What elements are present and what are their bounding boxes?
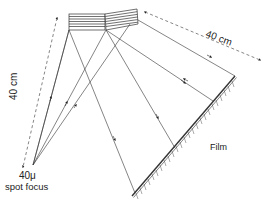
crystal-right-segment [105, 9, 138, 30]
incident-ray-arrows [50, 97, 76, 108]
distance-label-left: 40 cm [8, 73, 19, 100]
film [132, 76, 237, 198]
focus-size-label: 40μ [19, 170, 36, 181]
film-label: Film [210, 142, 227, 152]
crystal-left-segment [69, 14, 105, 30]
dimension-line-left [23, 18, 57, 167]
dimension-line-top [145, 12, 260, 60]
crystal-focusing-diagram [0, 0, 266, 206]
reflected-rays [33, 20, 235, 193]
film-hatching [136, 81, 234, 199]
focus-desc-label: spot focus [5, 181, 48, 192]
incident-rays [33, 24, 130, 165]
reflected-ray-arrows [113, 55, 211, 140]
